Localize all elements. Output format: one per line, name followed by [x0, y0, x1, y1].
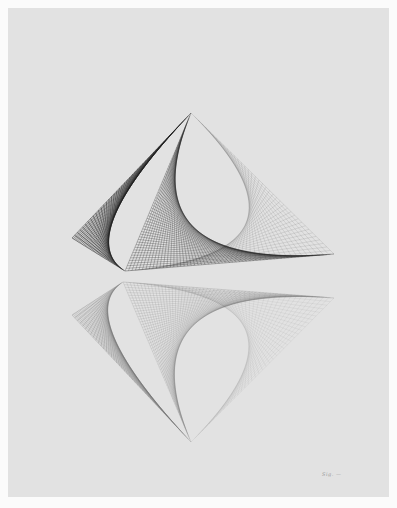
artist-signature: Sig. — [322, 471, 341, 477]
upper-concave-pyramid [72, 113, 334, 271]
string-art-illustration [0, 0, 397, 508]
reflected-concave-pyramid [72, 282, 334, 442]
